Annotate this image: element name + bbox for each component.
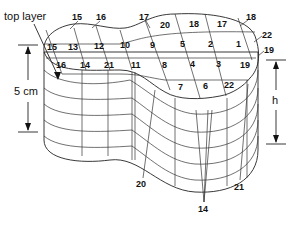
height-label: h	[272, 94, 278, 106]
cell-label: 20	[160, 20, 170, 30]
callout-label: 19	[264, 45, 274, 55]
callout-label: 17	[139, 12, 149, 22]
arrow-head-icon	[54, 72, 61, 80]
cell-label: 16	[56, 60, 66, 70]
callout-label: 20	[136, 179, 146, 189]
cell-label: 5	[180, 39, 185, 49]
cell-label: 9	[150, 40, 155, 50]
block-side-walls	[44, 52, 258, 192]
top-layer-label: top layer	[4, 10, 47, 22]
callout-label: 21	[234, 182, 244, 192]
cell-label: 10	[120, 40, 130, 50]
cell-label: 19	[240, 60, 250, 70]
cell-label: 11	[131, 60, 141, 70]
cell-label: 7	[178, 82, 183, 92]
cell-label: 4	[190, 59, 195, 69]
cell-label: 15	[47, 42, 57, 52]
cell-label: 6	[203, 81, 208, 91]
arrow-up-icon	[25, 46, 31, 54]
cell-label: 8	[162, 60, 167, 70]
cell-label: 14	[80, 60, 90, 70]
cell-label: 2	[208, 39, 213, 49]
cell-label: 22	[224, 80, 234, 90]
callout-label: 14	[198, 204, 208, 214]
arrow-down-icon	[25, 123, 31, 131]
cell-label: 3	[216, 59, 221, 69]
arrow-up-icon	[273, 61, 279, 69]
layered-block-diagram: 20 18 17 15 13 12 10 9 5 2 1 16 14 21 11…	[0, 0, 302, 225]
thickness-dimension: 5 cm	[14, 45, 38, 132]
cell-label: 1	[236, 39, 241, 49]
cell-label: 18	[189, 19, 199, 29]
cell-label: 12	[94, 41, 104, 51]
height-dimension: h	[266, 60, 286, 144]
callout-label: 16	[96, 12, 106, 22]
cell-label: 17	[217, 19, 227, 29]
callout-label: 15	[72, 12, 82, 22]
arrow-down-icon	[273, 135, 279, 143]
callout-label: 22	[262, 30, 272, 40]
thickness-label: 5 cm	[14, 85, 38, 97]
cell-label: 13	[68, 42, 78, 52]
cell-label: 21	[104, 60, 114, 70]
